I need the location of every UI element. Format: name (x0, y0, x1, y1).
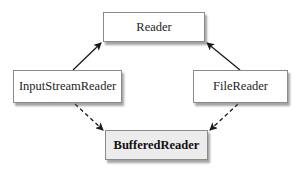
node-reader: Reader (103, 12, 205, 42)
edge-filereader-to-reader (207, 43, 240, 70)
edge-isr-to-reader (73, 43, 101, 70)
node-label: FileReader (213, 79, 268, 94)
node-inputstreamreader: InputStreamReader (13, 70, 122, 103)
edge-filereader-to-bufferedreader (210, 104, 238, 130)
node-label: BufferedReader (114, 138, 200, 153)
diagram-canvas: Reader InputStreamReader FileReader Buff… (0, 0, 305, 174)
edge-isr-to-bufferedreader (75, 104, 103, 130)
node-filereader: FileReader (193, 70, 288, 103)
node-label: Reader (136, 20, 171, 35)
node-label: InputStreamReader (19, 79, 116, 94)
node-bufferedreader: BufferedReader (105, 130, 208, 160)
